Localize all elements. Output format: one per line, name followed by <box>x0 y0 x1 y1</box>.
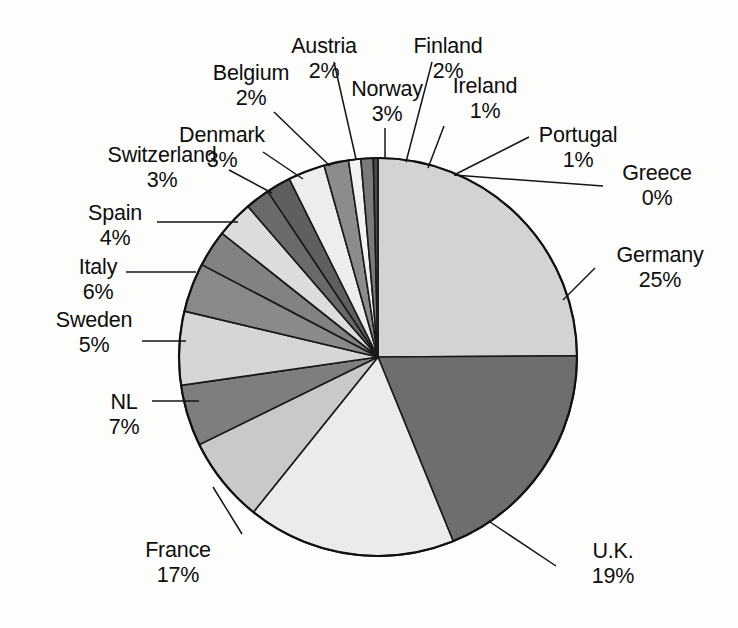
slice-label-italy: Italy 6% <box>56 255 140 305</box>
leader-line-ireland <box>428 126 444 168</box>
slice-label-ireland-value: 1% <box>437 99 533 124</box>
slice-label-spain-value: 4% <box>60 226 170 251</box>
slice-label-france-value: 17% <box>116 563 240 588</box>
slice-label-italy-value: 6% <box>56 280 140 305</box>
slice-label-spain: Spain 4% <box>60 201 170 251</box>
slice-label-ireland: Ireland 1% <box>437 74 533 124</box>
slice-label-finland-name: Finland <box>398 34 498 59</box>
leader-line-portugal <box>454 137 529 175</box>
slice-label-portugal-name: Portugal <box>523 123 633 148</box>
slice-label-sweden-value: 5% <box>36 333 152 358</box>
slice-label-nl-name: NL <box>88 390 160 415</box>
slice-label-belgium: Belgium 2% <box>196 61 306 111</box>
slice-label-switzerland-value: 3% <box>82 168 242 193</box>
slice-label-austria-name: Austria <box>269 34 379 59</box>
slice-label-uk-name: U.K. <box>565 539 661 564</box>
slice-label-germany: Germany 25% <box>604 243 716 293</box>
slice-label-switzerland: Switzerland 3% <box>82 143 242 193</box>
slice-label-greece-name: Greece <box>607 161 707 186</box>
slice-label-uk: U.K. 19% <box>565 539 661 589</box>
leader-line-uk <box>490 522 556 566</box>
slice-label-belgium-value: 2% <box>196 86 306 111</box>
slice-label-belgium-name: Belgium <box>196 61 306 86</box>
leader-line-belgium <box>274 112 330 166</box>
slice-label-nl-value: 7% <box>88 415 160 440</box>
slice-label-sweden: Sweden 5% <box>36 308 152 358</box>
pie-chart-figure: Austria 2% Finland 2% Belgium 2% Norway … <box>0 0 738 628</box>
slice-label-greece-value: 0% <box>607 186 707 211</box>
slice-label-germany-name: Germany <box>604 243 716 268</box>
slice-label-ireland-name: Ireland <box>437 74 533 99</box>
slice-label-france: France 17% <box>116 538 240 588</box>
pie-slice-germany <box>378 158 577 357</box>
slice-label-italy-name: Italy <box>56 255 140 280</box>
slice-label-greece: Greece 0% <box>607 161 707 211</box>
slice-label-germany-value: 25% <box>604 268 716 293</box>
slice-label-nl: NL 7% <box>88 390 160 440</box>
pie-slices-group <box>179 158 577 556</box>
slice-label-spain-name: Spain <box>60 201 170 226</box>
leader-line-germany <box>563 268 595 300</box>
slice-label-norway: Norway 3% <box>335 77 439 127</box>
slice-label-switzerland-name: Switzerland <box>82 143 242 168</box>
slice-label-uk-value: 19% <box>565 564 661 589</box>
slice-label-norway-value: 3% <box>335 102 439 127</box>
slice-label-norway-name: Norway <box>335 77 439 102</box>
slice-label-sweden-name: Sweden <box>36 308 152 333</box>
slice-label-france-name: France <box>116 538 240 563</box>
